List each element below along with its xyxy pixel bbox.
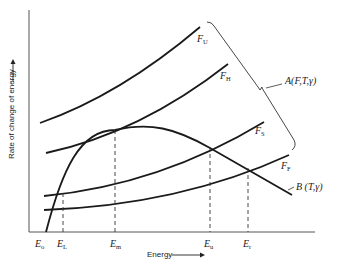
label-fh: FH bbox=[220, 71, 231, 83]
tick-em: Em bbox=[110, 239, 121, 251]
energy-rate-diagram bbox=[0, 0, 337, 270]
x-axis-arrow-icon bbox=[200, 253, 205, 258]
label-brace-a: A(F,T,γ) bbox=[285, 76, 316, 86]
tick-er: Er bbox=[243, 239, 251, 251]
b-leader bbox=[288, 187, 294, 190]
tick-el: EL bbox=[57, 239, 67, 251]
brace-a-leader bbox=[266, 84, 282, 88]
label-curve-b: B (T,γ) bbox=[296, 182, 323, 192]
y-axis-arrow-icon bbox=[11, 59, 16, 64]
curve-fh bbox=[46, 64, 228, 153]
brace-a bbox=[207, 22, 295, 150]
curve-ff bbox=[44, 155, 289, 210]
label-ff: FF bbox=[281, 161, 291, 173]
label-fu: FU bbox=[197, 34, 208, 46]
tick-eu: Eu bbox=[204, 239, 213, 251]
curve-fu bbox=[40, 27, 200, 123]
tick-e0: Eo bbox=[35, 239, 44, 251]
y-axis-title: Rate of change of energy bbox=[8, 69, 16, 159]
x-axis-title: Energy bbox=[147, 251, 172, 259]
label-fs: FS bbox=[255, 126, 265, 138]
